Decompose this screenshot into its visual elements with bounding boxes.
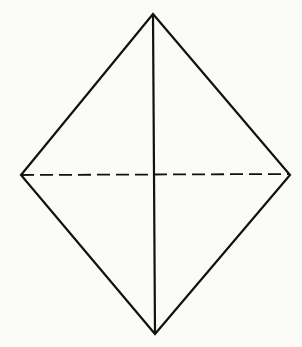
horizontal-dashed-diagonal (21, 174, 290, 175)
rhombus-diagram (0, 0, 302, 347)
